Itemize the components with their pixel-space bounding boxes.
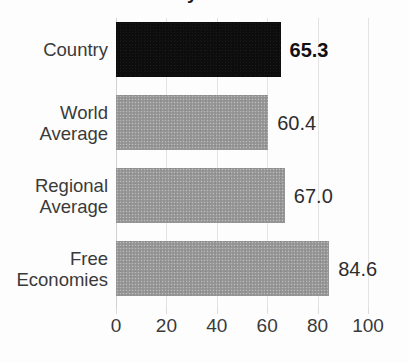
x-axis-tick-label: 0	[89, 315, 143, 337]
category-label-line: Economies	[0, 269, 108, 290]
bar	[116, 168, 285, 223]
x-axis-tick-label: 100	[341, 315, 395, 337]
tickmark-0	[116, 308, 117, 314]
bar	[116, 95, 268, 150]
category-label-line: Country	[0, 39, 108, 60]
category-label-line: Regional	[0, 175, 108, 196]
tickmark-60	[267, 308, 268, 314]
category-label: WorldAverage	[0, 102, 108, 144]
bar	[116, 22, 281, 77]
bar-value-label: 67.0	[294, 185, 333, 207]
category-label: FreeEconomies	[0, 248, 108, 290]
tickmark-40	[217, 308, 218, 314]
category-label-line: Free	[0, 248, 108, 269]
bar-value-label: 60.4	[277, 112, 316, 134]
bar-value-label: 65.3	[290, 39, 329, 61]
category-label-line: Average	[0, 196, 108, 217]
bar-chart: Economy Scorecard 020406080100Country65.…	[0, 0, 409, 363]
x-axis-tick-label: 60	[240, 315, 294, 337]
bar-value-label: 84.6	[338, 258, 377, 280]
category-label-line: Average	[0, 123, 108, 144]
bar	[116, 241, 329, 296]
tickmark-100	[368, 308, 369, 314]
tickmark-80	[318, 308, 319, 314]
chart-title-clipped: Economy Scorecard	[0, 0, 409, 6]
x-axis-tick-label: 80	[291, 315, 345, 337]
x-axis-tick-label: 40	[190, 315, 244, 337]
category-label-line: World	[0, 102, 108, 123]
tickmark-20	[166, 308, 167, 314]
category-label: Country	[0, 39, 108, 60]
category-label: RegionalAverage	[0, 175, 108, 217]
chart-title-text: Economy Scorecard	[0, 0, 409, 4]
x-axis-tick-label: 20	[139, 315, 193, 337]
